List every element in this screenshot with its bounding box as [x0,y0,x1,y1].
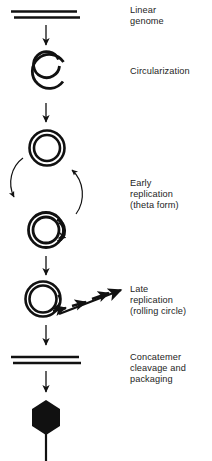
cycle-arrow-down [11,158,23,197]
label-early-replication: Early replication (theta form) [130,178,179,212]
theta-form-shape [29,213,65,248]
concatemer-shape [11,357,81,363]
label-linear-genome: Linear genome [130,5,164,27]
phage-particle-shape [32,400,60,461]
circularization-shape [32,52,63,89]
phage-replication-diagram: Linear genome Circularization Early repl… [0,0,212,461]
label-concatemer: Concatemer cleavage and packaging [130,352,186,386]
cycle-arrow-up [72,170,82,214]
rolling-circle-shape [26,282,122,317]
rolling-circle-tail [53,290,121,314]
label-late-replication: Late replication (rolling circle) [130,284,186,318]
closed-circle-shape [30,131,65,166]
label-circularization: Circularization [130,66,190,77]
linear-genome-shape [11,12,80,18]
